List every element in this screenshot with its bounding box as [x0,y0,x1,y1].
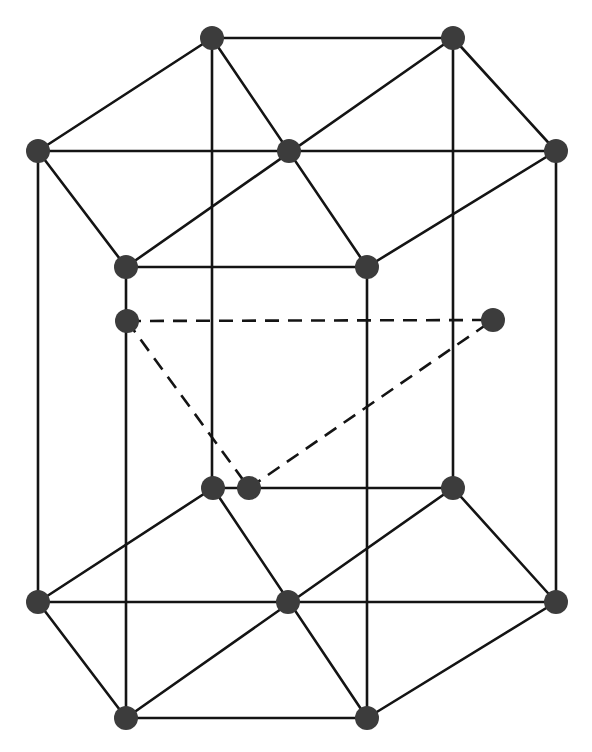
middle-layer-atoms [115,308,505,500]
atom-middle [237,476,261,500]
atom-top [441,26,465,50]
cell-edge [453,38,556,151]
atom-bottom [114,706,138,730]
atom-top [200,26,224,50]
atom-top [114,255,138,279]
atom-top [26,139,50,163]
unit-cell-edges [38,38,556,718]
atom-bottom [544,590,568,614]
atom-top [544,139,568,163]
atom-middle [115,309,139,333]
hcp-crystal-diagram [0,0,592,752]
cell-edge [367,602,556,718]
dashed-edge [127,321,249,488]
middle-layer-triangle [127,320,493,488]
cell-edge [367,151,556,267]
dashed-edge [127,320,493,321]
atom-bottom [201,476,225,500]
atom-middle [481,308,505,332]
cell-edge [38,38,212,151]
atom-bottom [276,590,300,614]
cell-edge [38,151,126,267]
atom-top [277,139,301,163]
cell-edge [38,602,126,718]
atom-bottom [441,476,465,500]
atom-top [355,255,379,279]
atom-bottom [26,590,50,614]
cell-edge [453,488,556,602]
dashed-edge [249,320,493,488]
atom-bottom [355,706,379,730]
